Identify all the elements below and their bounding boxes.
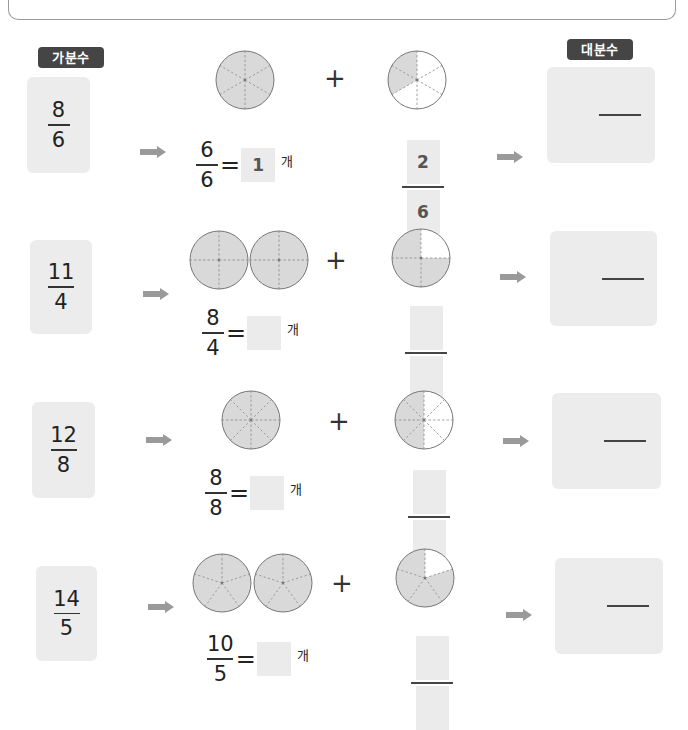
eq-denominator: 6 — [200, 168, 213, 192]
right-arrow-icon — [503, 432, 529, 451]
equals-sign: = — [229, 479, 249, 507]
eq-fraction: 10 5 — [207, 632, 234, 686]
mixed-whole-box[interactable] — [573, 590, 603, 624]
right-arrow-icon — [143, 285, 169, 304]
mixed-numerator-box[interactable] — [608, 401, 642, 437]
fraction-bar — [48, 286, 74, 288]
remainder-numerator-box[interactable] — [410, 306, 443, 350]
right-arrow-icon — [140, 143, 166, 162]
whole-count-equation: 8 4 = 개 — [202, 306, 299, 360]
fraction-bar — [408, 516, 450, 518]
whole-count-answer-box[interactable] — [247, 316, 281, 350]
eq-fraction: 8 8 — [205, 466, 227, 520]
improper-fraction-card: 8 6 — [27, 77, 90, 173]
partial-circle-diagram — [386, 49, 448, 111]
fraction-bar — [202, 332, 224, 334]
whole-count-equation: 10 5 = 개 — [207, 632, 309, 686]
mixed-numerator-box[interactable] — [606, 239, 640, 275]
unit-label: 개 — [297, 645, 309, 664]
equals-sign: = — [226, 319, 246, 347]
remainder-denominator-box[interactable] — [416, 686, 449, 730]
right-arrow-icon — [497, 148, 523, 167]
right-arrow-icon — [506, 606, 532, 625]
eq-numerator: 8 — [209, 466, 222, 490]
eq-denominator: 5 — [214, 662, 227, 686]
whole-count-answer-box[interactable] — [250, 476, 284, 510]
eq-denominator: 8 — [209, 496, 222, 520]
partial-circle-diagram — [393, 389, 455, 451]
fraction-bar — [599, 114, 641, 116]
whole-count-answer-box[interactable] — [257, 642, 291, 676]
partial-circle-diagram — [394, 547, 456, 609]
fraction-bar — [607, 605, 649, 607]
mixed-number-badge: 대분수 — [567, 39, 633, 60]
improper-fraction-card: 14 5 — [36, 566, 97, 661]
plus-sign: + — [328, 408, 350, 434]
improper-denominator: 8 — [57, 453, 70, 477]
eq-numerator: 8 — [206, 306, 219, 330]
mixed-numerator-box[interactable] — [611, 566, 645, 602]
mixed-number-answer-card — [552, 393, 661, 489]
fraction-bar — [207, 658, 233, 660]
improper-numerator: 12 — [50, 423, 77, 447]
plus-sign: + — [325, 247, 347, 273]
remainder-numerator-box[interactable]: 2 — [407, 140, 440, 184]
remainder-fraction — [405, 306, 447, 400]
fraction-bar — [196, 164, 218, 166]
improper-fraction-badge: 가분수 — [38, 47, 104, 68]
improper-fraction: 11 4 — [30, 260, 92, 314]
plus-sign: + — [324, 65, 346, 91]
fraction-bar — [402, 186, 444, 188]
remainder-numerator-box[interactable] — [413, 470, 446, 514]
whole-circle-diagram — [214, 49, 276, 111]
improper-fraction: 14 5 — [36, 587, 97, 641]
eq-numerator: 6 — [200, 138, 213, 162]
mixed-whole-box[interactable] — [565, 99, 595, 133]
unit-label: 개 — [290, 479, 302, 498]
mixed-numerator-box[interactable] — [603, 75, 637, 111]
partial-circle-diagram — [390, 227, 452, 289]
right-arrow-icon — [148, 598, 174, 617]
unit-label: 개 — [281, 151, 293, 170]
mixed-denominator-box[interactable] — [611, 610, 645, 646]
eq-fraction: 8 4 — [202, 306, 224, 360]
remainder-fraction: 2 6 — [402, 140, 444, 234]
plus-sign: + — [331, 570, 353, 596]
improper-numerator: 14 — [53, 587, 80, 611]
whole-circle-diagram — [191, 552, 253, 614]
mixed-number-answer-card — [550, 231, 657, 326]
instruction-box — [8, 0, 676, 20]
fraction-bar — [602, 278, 644, 280]
whole-circle-diagram — [188, 229, 250, 291]
eq-numerator: 10 — [207, 632, 234, 656]
fraction-bar — [48, 124, 70, 126]
whole-count-equation: 8 8 = 개 — [205, 466, 302, 520]
improper-denominator: 6 — [52, 128, 65, 152]
right-arrow-icon — [146, 431, 172, 450]
mixed-denominator-box[interactable] — [603, 119, 637, 155]
unit-label: 개 — [287, 319, 299, 338]
whole-circle-diagram — [220, 389, 282, 451]
equals-sign: = — [236, 645, 256, 673]
improper-fraction-card: 11 4 — [30, 240, 92, 334]
fraction-bar — [51, 449, 77, 451]
improper-fraction-card: 12 8 — [32, 402, 95, 498]
fraction-bar — [205, 492, 227, 494]
improper-denominator: 5 — [60, 616, 73, 640]
whole-count-equation: 6 6 = 1 개 — [196, 138, 293, 192]
mixed-denominator-box[interactable] — [606, 283, 640, 319]
improper-denominator: 4 — [54, 290, 67, 314]
mixed-number-answer-card — [555, 558, 663, 654]
whole-count-answer-box[interactable]: 1 — [241, 148, 275, 182]
right-arrow-icon — [500, 268, 526, 287]
mixed-whole-box[interactable] — [568, 263, 598, 297]
whole-circle-diagram — [248, 229, 310, 291]
fraction-bar — [54, 613, 80, 615]
mixed-whole-box[interactable] — [570, 425, 600, 459]
fraction-bar — [411, 682, 453, 684]
mixed-number-answer-card — [547, 67, 655, 163]
remainder-numerator-box[interactable] — [416, 636, 449, 680]
improper-fraction: 8 6 — [27, 98, 90, 152]
improper-numerator: 8 — [52, 98, 65, 122]
mixed-denominator-box[interactable] — [608, 445, 642, 481]
